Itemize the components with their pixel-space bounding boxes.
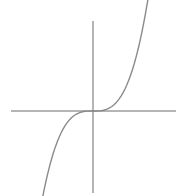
cubic-function-plot [0, 0, 190, 196]
